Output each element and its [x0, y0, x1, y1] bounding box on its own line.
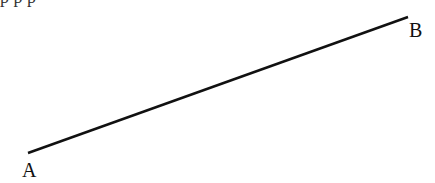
point-label-a: A	[22, 160, 36, 180]
line-segment-diagram	[0, 0, 435, 183]
segment-ab	[28, 17, 408, 153]
point-label-b: B	[409, 20, 422, 40]
